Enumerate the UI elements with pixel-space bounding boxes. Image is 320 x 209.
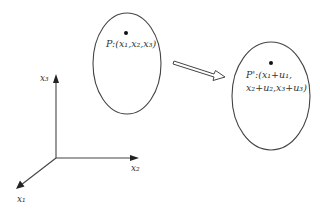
deformed-point-dot <box>269 61 273 65</box>
x1-axis-label: x₁ <box>17 195 26 204</box>
transformation-arrow-icon <box>173 61 225 81</box>
deformed-point-label-line2: x₂+u₂,x₃+u₃) <box>246 83 307 93</box>
deformation-diagram: P:(x₁,x₂,x₃) P':(x₁+u₁, x₂+u₂,x₃+u₃) x₃ … <box>0 0 320 209</box>
deformed-body-ellipse <box>232 42 310 150</box>
diagram-graphics <box>0 0 320 209</box>
deformed-point-label-line1: P':(x₁+u₁, <box>246 70 292 80</box>
x2-axis-label: x₂ <box>131 164 140 173</box>
initial-point-dot <box>124 31 128 35</box>
initial-body-ellipse <box>93 13 161 114</box>
initial-point-label: P:(x₁,x₂,x₃) <box>106 39 156 49</box>
coordinate-axes <box>16 74 139 189</box>
x3-axis-label: x₃ <box>40 74 49 83</box>
